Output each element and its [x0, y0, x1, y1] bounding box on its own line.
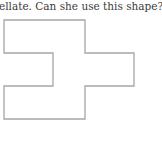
shape-outline	[4, 20, 134, 119]
polygon-shape-figure	[0, 0, 162, 148]
